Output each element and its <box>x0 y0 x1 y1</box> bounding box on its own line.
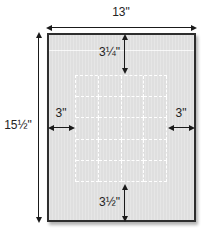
arrowhead-up-icon <box>122 184 128 190</box>
dimension-line <box>38 35 39 220</box>
grid-cell <box>99 161 122 182</box>
grid-cell <box>122 76 145 97</box>
bottom-offset-label: 3½" <box>84 195 120 209</box>
grid-cell <box>122 97 145 118</box>
dimension-line <box>49 27 194 28</box>
arrowhead-down-icon <box>36 217 42 223</box>
grid-cell <box>99 97 122 118</box>
grid-cell <box>99 76 122 97</box>
arrowhead-right-icon <box>69 125 75 131</box>
grid-cell <box>122 140 145 161</box>
arrowhead-up-icon <box>36 32 42 38</box>
grid-cell <box>99 140 122 161</box>
grid-cell <box>144 140 167 161</box>
placement-grid <box>75 75 167 182</box>
grid-cell <box>122 118 145 139</box>
grid-cell <box>144 97 167 118</box>
left-offset-label: 3" <box>48 106 74 120</box>
grid-cell <box>76 76 99 97</box>
grid-cell <box>76 140 99 161</box>
grid-cell <box>144 161 167 182</box>
dimension-line <box>124 186 125 220</box>
arrowhead-right-icon <box>191 25 197 31</box>
measurement-diagram: 13" 15½" 3¼" 3" 3" 3½" <box>0 0 213 234</box>
grid-cell <box>144 118 167 139</box>
grid-cell <box>99 118 122 139</box>
right-offset-label: 3" <box>168 106 194 120</box>
arrowhead-left-icon <box>48 125 54 131</box>
top-offset-label: 3¼" <box>86 45 120 59</box>
arrowhead-left-icon <box>168 125 174 131</box>
dimension-line <box>124 37 125 71</box>
seam-line <box>49 50 194 51</box>
grid-cell <box>122 161 145 182</box>
grid-cell <box>76 118 99 139</box>
grid-cell <box>76 161 99 182</box>
panel-height-label: 15½" <box>1 118 35 132</box>
arrowhead-right-icon <box>189 125 195 131</box>
arrowhead-down-icon <box>122 68 128 74</box>
arrowhead-up-icon <box>122 34 128 40</box>
arrowhead-left-icon <box>46 25 52 31</box>
arrowhead-down-icon <box>122 216 128 222</box>
panel-width-label: 13" <box>100 5 142 19</box>
grid-cell <box>144 76 167 97</box>
grid-cell <box>76 97 99 118</box>
